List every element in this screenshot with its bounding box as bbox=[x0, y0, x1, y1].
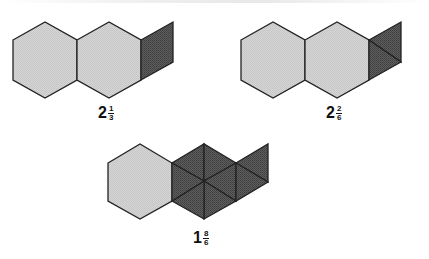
label-fraction: 8 6 bbox=[203, 230, 209, 247]
label-denominator: 3 bbox=[109, 114, 113, 122]
figure-b-label: 2 2 6 bbox=[326, 104, 342, 122]
hexagon-light bbox=[77, 22, 141, 98]
label-fraction: 2 6 bbox=[336, 105, 342, 122]
pattern-block-diagram bbox=[0, 0, 429, 259]
label-denominator: 6 bbox=[337, 114, 341, 122]
label-whole: 2 bbox=[98, 104, 107, 122]
label-denominator: 6 bbox=[204, 239, 208, 247]
hexagon-light bbox=[305, 22, 369, 98]
label-whole: 1 bbox=[193, 229, 202, 247]
label-fraction: 1 3 bbox=[108, 105, 114, 122]
hexagon-of-triangles bbox=[172, 144, 236, 219]
label-whole: 2 bbox=[326, 104, 335, 122]
rhombus-dark bbox=[141, 22, 173, 80]
figure-b bbox=[241, 22, 401, 98]
hexagon-light bbox=[108, 144, 172, 219]
figure-c bbox=[108, 144, 268, 219]
hexagon-light bbox=[13, 22, 77, 98]
hexagon-light bbox=[241, 22, 305, 98]
figure-a bbox=[13, 22, 173, 98]
figure-c-label: 1 8 6 bbox=[193, 229, 209, 247]
figure-a-label: 2 1 3 bbox=[98, 104, 114, 122]
